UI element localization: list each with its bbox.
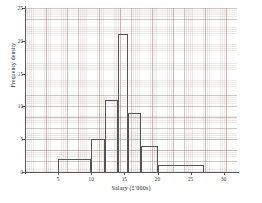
- x-tick-label: 25: [188, 176, 193, 182]
- bars-group: [25, 8, 237, 172]
- x-tick-mark: [158, 172, 159, 175]
- y-tick-label: 5: [9, 136, 23, 142]
- x-axis-line: [24, 172, 239, 173]
- x-tick-mark: [124, 172, 125, 175]
- x-tick-mark: [91, 172, 92, 175]
- x-tick-label: 15: [122, 176, 127, 182]
- x-tick-label: 5: [57, 176, 60, 182]
- y-axis-title: Frequency density: [10, 10, 16, 120]
- x-tick-label: 20: [155, 176, 160, 182]
- plot-area: [25, 8, 237, 172]
- y-axis-line: [25, 6, 26, 174]
- x-tick-mark: [191, 172, 192, 175]
- histogram-bar: [58, 159, 91, 172]
- histogram-bar: [105, 100, 118, 172]
- x-tick-mark: [58, 172, 59, 175]
- histogram-bar: [118, 34, 128, 172]
- x-tick-mark: [224, 172, 225, 175]
- histogram-chart: 51015202530 0510152025 Salary (£'000s) F…: [0, 0, 262, 203]
- y-tick-label: 0: [9, 169, 23, 175]
- x-tick-label: 30: [221, 176, 226, 182]
- x-tick-label: 10: [89, 176, 94, 182]
- histogram-bar: [91, 139, 104, 172]
- histogram-bar: [128, 113, 141, 172]
- x-axis-title: Salary (£'000s): [25, 185, 237, 191]
- histogram-bar: [141, 146, 158, 172]
